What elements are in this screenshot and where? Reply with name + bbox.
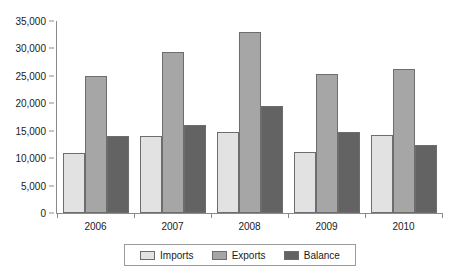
legend-swatch-icon <box>284 251 299 260</box>
chart-legend: ImportsExportsBalance <box>124 244 356 266</box>
bar-group <box>365 21 442 213</box>
y-axis-tick-mark <box>49 185 54 186</box>
y-axis-tick-label: 20,000 <box>15 98 46 109</box>
y-axis-tick-mark <box>49 213 54 214</box>
legend-label: Balance <box>304 250 340 261</box>
y-axis-tick-label: 5,000 <box>21 180 46 191</box>
legend-item-imports[interactable]: Imports <box>140 250 193 261</box>
legend-label: Imports <box>160 250 193 261</box>
x-axis-tick-mark <box>365 213 366 218</box>
bar-balance-2010 <box>415 145 437 213</box>
bar-imports-2008 <box>217 132 239 213</box>
y-axis-tick-label: 10,000 <box>15 153 46 164</box>
x-axis-tick-mark <box>134 213 135 218</box>
bar-group <box>288 21 365 213</box>
bar-group-bars <box>57 21 134 213</box>
y-axis-tick-mark <box>49 103 54 104</box>
bar-group <box>57 21 134 213</box>
bar-exports-2007 <box>162 52 184 213</box>
legend-swatch-icon <box>212 251 227 260</box>
y-axis-tick-mark <box>49 48 54 49</box>
x-axis-tick-label: 2010 <box>392 221 414 232</box>
legend-item-balance[interactable]: Balance <box>284 250 340 261</box>
bar-group <box>211 21 288 213</box>
y-axis-tick-label: 35,000 <box>15 16 46 27</box>
y-axis-tick-mark <box>49 75 54 76</box>
y-axis-tick-label: 0 <box>40 208 46 219</box>
x-axis-tick-label: 2008 <box>238 221 260 232</box>
y-axis-tick-mark <box>49 158 54 159</box>
bar-exports-2009 <box>316 74 338 213</box>
y-axis-tick-label: 15,000 <box>15 125 46 136</box>
plot-area <box>57 21 442 213</box>
bar-balance-2006 <box>107 136 129 213</box>
bar-group-bars <box>211 21 288 213</box>
y-axis-tick-label: 25,000 <box>15 70 46 81</box>
x-axis-tick-label: 2007 <box>161 221 183 232</box>
y-axis: 05,00010,00015,00020,00025,00030,00035,0… <box>0 0 56 218</box>
legend-swatch-icon <box>140 251 155 260</box>
bar-exports-2008 <box>239 32 261 213</box>
bar-balance-2007 <box>184 125 206 213</box>
bar-imports-2006 <box>63 153 85 213</box>
y-axis-tick-mark <box>49 130 54 131</box>
bar-balance-2008 <box>261 106 283 213</box>
bar-chart: 05,00010,00015,00020,00025,00030,00035,0… <box>0 0 451 279</box>
bar-exports-2006 <box>85 76 107 213</box>
legend-item-exports[interactable]: Exports <box>212 250 266 261</box>
bar-group-bars <box>365 21 442 213</box>
bar-group-bars <box>288 21 365 213</box>
x-axis-tick-label: 2006 <box>84 221 106 232</box>
bar-imports-2007 <box>140 136 162 213</box>
bar-group <box>134 21 211 213</box>
x-axis-tick-mark <box>211 213 212 218</box>
x-axis-line <box>56 213 442 214</box>
x-axis-tick-mark <box>442 213 443 218</box>
y-axis-tick-mark <box>49 21 54 22</box>
y-axis-tick-label: 30,000 <box>15 43 46 54</box>
bar-imports-2010 <box>371 135 393 213</box>
bar-exports-2010 <box>393 69 415 213</box>
x-axis-tick-label: 2009 <box>315 221 337 232</box>
legend-label: Exports <box>232 250 266 261</box>
bar-group-bars <box>134 21 211 213</box>
bar-imports-2009 <box>294 152 316 213</box>
x-axis-tick-mark <box>288 213 289 218</box>
x-axis-tick-mark <box>57 213 58 218</box>
bar-balance-2009 <box>338 132 360 213</box>
